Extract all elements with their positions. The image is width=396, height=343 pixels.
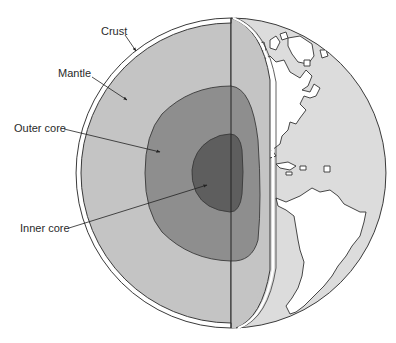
label-crust: Crust [101,26,127,37]
label-outer-core: Outer core [14,123,66,134]
label-mantle: Mantle [58,68,91,79]
crust-leader [125,35,136,51]
label-inner-core: Inner core [20,223,70,234]
earth-cutaway-diagram [0,0,396,343]
